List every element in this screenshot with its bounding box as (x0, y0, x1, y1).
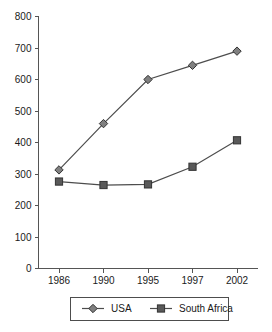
chart-legend: USASouth Africa (71, 298, 234, 321)
y-tick-label: 200 (15, 200, 32, 211)
x-tick-label: 2002 (226, 275, 249, 286)
data-point-marker-square (144, 181, 151, 188)
y-tick-label: 700 (15, 43, 32, 54)
y-tick-label: 400 (15, 137, 32, 148)
x-tick-label: 1997 (181, 275, 204, 286)
legend-label: USA (111, 303, 132, 314)
y-tick-label: 800 (15, 11, 32, 22)
data-point-marker-square (233, 137, 240, 144)
y-tick-label: 0 (26, 263, 32, 274)
data-point-marker-square (55, 178, 62, 185)
data-point-marker-square (100, 181, 107, 188)
x-tick-label: 1990 (92, 275, 115, 286)
chart-canvas: 0100200300400500600700800 19861990199519… (0, 0, 272, 332)
y-tick-label: 500 (15, 106, 32, 117)
x-tick-label: 1995 (137, 275, 160, 286)
square-marker-icon (157, 305, 164, 312)
line-chart: 0100200300400500600700800 19861990199519… (0, 0, 272, 332)
legend-label: South Africa (179, 303, 233, 314)
legend-item-south-africa[interactable]: South Africa (150, 303, 233, 314)
y-tick-label: 300 (15, 169, 32, 180)
x-tick-label: 1986 (48, 275, 71, 286)
y-tick-label: 100 (15, 232, 32, 243)
y-tick-label: 600 (15, 74, 32, 85)
data-point-marker-square (189, 163, 196, 170)
